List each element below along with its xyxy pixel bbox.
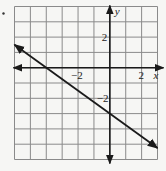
data-line (15, 45, 158, 148)
x-tick-label: −2 (71, 69, 83, 81)
x-axis-label: x (153, 69, 159, 81)
y-tick-label: −2 (97, 92, 109, 104)
y-axis-label: y (114, 5, 120, 17)
x-tick-label: 2 (139, 69, 145, 81)
grid (15, 7, 158, 160)
graph: xy−222−2 (0, 0, 166, 171)
problem-marker-dot (2, 12, 4, 14)
y-tick-label: 2 (102, 31, 108, 43)
